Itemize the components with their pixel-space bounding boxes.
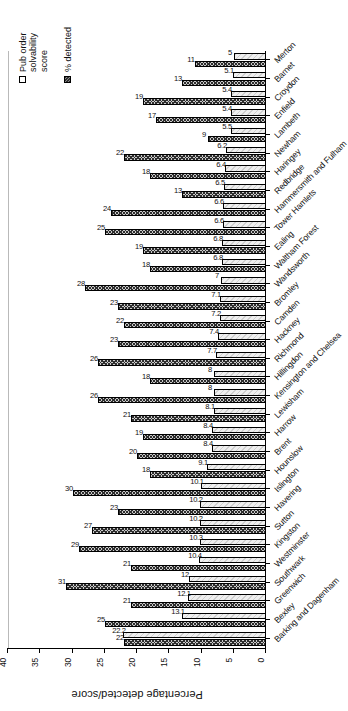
bar-value-label-detected: 10.2: [189, 514, 203, 523]
bar-value-label-detected: 13.1: [171, 607, 185, 616]
value-axis-tick: [201, 648, 202, 653]
bar-value-label-score: 18: [142, 167, 150, 176]
category-tick: [266, 619, 270, 620]
legend-item-detected: % detected: [63, 10, 73, 83]
bar-value-label-score: 20: [129, 447, 137, 456]
bar-value-label-score: 19: [136, 242, 144, 251]
bar-pub-order-solvability-score: [137, 453, 266, 459]
bar-percent-detected: [222, 259, 266, 265]
bar-percent-detected: [207, 464, 266, 470]
bar-pub-order-solvability-score: [92, 527, 266, 533]
value-axis-title: Percentage detected/score: [8, 689, 266, 701]
bar-value-label-detected: 6.5: [215, 178, 225, 187]
bar-percent-detected: [223, 221, 266, 227]
bar-value-label-detected: 7.1: [211, 290, 221, 299]
bar-percent-detected: [212, 445, 266, 451]
bar-value-label-score: 29: [71, 540, 79, 549]
value-axis-tick: [265, 648, 266, 653]
bar-percent-detected: [182, 613, 266, 619]
bar-pub-order-solvability-score: [208, 136, 266, 142]
bar-percent-detected: [222, 240, 266, 246]
bar-value-label-detected: 12: [181, 570, 189, 579]
category-tick: [266, 283, 270, 284]
category-tick: [266, 59, 270, 60]
bar-pub-order-solvability-score: [98, 397, 266, 403]
category-tick: [266, 638, 270, 639]
category-tick: [266, 265, 270, 266]
value-axis-tick-label: 40: [0, 658, 8, 680]
bar-percent-detected: [221, 277, 266, 283]
legend-label-detected: % detected: [63, 27, 73, 72]
bar-value-label-score: 11: [187, 55, 194, 64]
bar-pub-order-solvability-score: [195, 61, 266, 67]
bar-value-label-score: 19: [136, 92, 144, 101]
bar-percent-detected: [214, 371, 266, 377]
bar-percent-detected: [123, 632, 266, 638]
bar-value-label-score: 22: [116, 316, 124, 325]
category-tick: [266, 246, 270, 247]
bar-value-label-score: 22: [116, 148, 124, 157]
category-tick: [266, 600, 270, 601]
category-tick: [266, 321, 270, 322]
bar-value-label-detected: 6.6: [215, 216, 225, 225]
category-tick: [266, 134, 270, 135]
legend-item-score: Pub order solvability score: [18, 10, 49, 83]
category-tick: [266, 190, 270, 191]
bar-value-label-score: 24: [103, 204, 111, 213]
bar-value-label-score: 18: [142, 260, 150, 269]
value-axis-tick-label: 35: [30, 658, 40, 680]
bar-pub-order-solvability-score: [131, 602, 266, 608]
value-axis-tick: [136, 648, 137, 653]
gridline: [8, 51, 9, 648]
bar-percent-detected: [188, 594, 266, 600]
bar-pub-order-solvability-score: [124, 639, 266, 645]
bar-percent-detected: [224, 184, 266, 190]
bar-value-label-score: 13: [174, 186, 182, 195]
value-axis-tick-label: 20: [127, 658, 137, 680]
bar-pub-order-solvability-score: [105, 621, 266, 627]
bar-pub-order-solvability-score: [182, 192, 266, 198]
bar-value-label-detected: 8.4: [203, 421, 213, 430]
bar-pub-order-solvability-score: [131, 415, 266, 421]
bar-value-label-score: 23: [110, 335, 118, 344]
bar-value-label-score: 19: [136, 428, 144, 437]
bar-percent-detected: [216, 352, 266, 358]
bar-value-label-score: 21: [123, 410, 131, 419]
bar-percent-detected: [200, 520, 266, 526]
bar-pub-order-solvability-score: [150, 378, 266, 384]
bar-percent-detected: [214, 389, 266, 395]
bar-value-label-detected: 10.3: [189, 533, 203, 542]
category-tick: [266, 470, 270, 471]
category-axis-label: Merton: [272, 40, 297, 65]
value-axis-tick: [7, 648, 8, 653]
bar-value-label-detected: 7.4: [209, 327, 219, 336]
bar-pub-order-solvability-score: [118, 303, 266, 309]
bar-value-label-detected: 6.2: [217, 141, 227, 150]
bar-pub-order-solvability-score: [111, 210, 266, 216]
bar-value-label-detected: 10.1: [190, 477, 204, 486]
category-tick: [266, 488, 270, 489]
bar-percent-detected: [200, 501, 266, 507]
bar-value-label-score: 9: [202, 130, 206, 139]
category-tick: [266, 526, 270, 527]
value-axis-tick: [233, 648, 234, 653]
bar-percent-detected: [223, 203, 266, 209]
category-tick: [266, 302, 270, 303]
category-axis-line: [265, 51, 266, 648]
category-tick: [266, 171, 270, 172]
category-tick: [266, 227, 270, 228]
bar-percent-detected: [220, 315, 266, 321]
bar-value-label-detected: 6.8: [213, 234, 223, 243]
chart-legend: Pub order solvability score % detected: [18, 10, 87, 83]
legend-swatch-score-icon: [19, 76, 26, 83]
bar-pub-order-solvability-score: [124, 154, 266, 160]
bar-value-label-detected: 6.6: [215, 197, 225, 206]
category-tick: [266, 507, 270, 508]
bar-value-label-score: 27: [84, 521, 92, 530]
bar-value-label-detected: 5.1: [224, 66, 234, 75]
bar-pub-order-solvability-score: [143, 98, 266, 104]
category-tick: [266, 432, 270, 433]
bar-value-label-detected: 8.1: [205, 402, 215, 411]
bar-value-label-score: 25: [97, 615, 105, 624]
